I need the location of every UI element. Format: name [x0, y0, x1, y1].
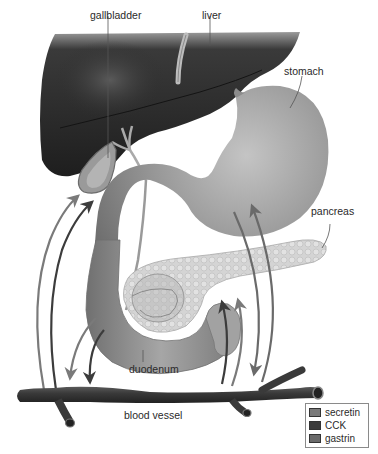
legend-item-gastrin: gastrin: [309, 432, 365, 445]
legend: secretin CCK gastrin: [305, 403, 369, 448]
legend-item-cck: CCK: [309, 419, 365, 432]
legend-label: secretin: [325, 407, 360, 418]
label-stomach: stomach: [284, 66, 324, 77]
legend-item-secretin: secretin: [309, 406, 365, 419]
label-gallbladder: gallbladder: [90, 10, 141, 21]
label-blood-vessel: blood vessel: [124, 410, 182, 421]
label-liver: liver: [202, 10, 221, 21]
cck-swatch: [309, 421, 321, 430]
legend-label: CCK: [325, 420, 346, 431]
legend-label: gastrin: [325, 433, 355, 444]
gastrin-swatch: [309, 434, 321, 443]
label-pancreas: pancreas: [311, 206, 354, 217]
secretin-swatch: [309, 408, 321, 417]
label-duodenum: duodenum: [129, 364, 179, 375]
